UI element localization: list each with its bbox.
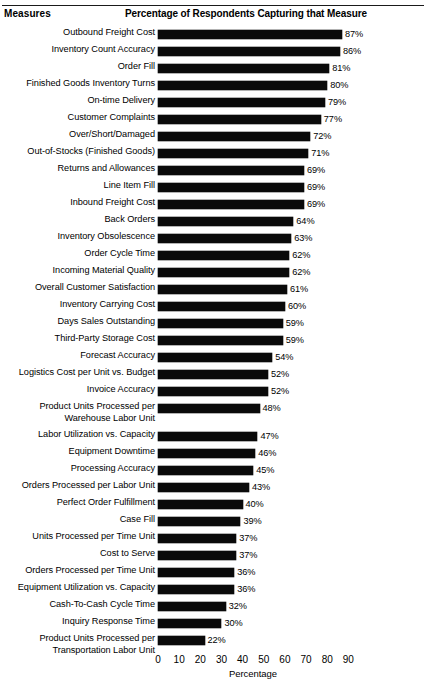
bar-track: 61%	[158, 285, 358, 294]
x-tick-label: 10	[174, 654, 185, 666]
bar	[158, 30, 342, 39]
chart-row: Labor Utilization vs. Capacity47%	[0, 429, 427, 446]
bar	[158, 466, 253, 475]
plot-area: Outbound Freight Cost87%Inventory Count …	[0, 27, 427, 661]
category-label: Inventory Count Accuracy	[3, 44, 155, 55]
chart-row: Case Fill39%	[0, 514, 427, 531]
bar	[158, 268, 289, 277]
category-label: Outbound Freight Cost	[3, 27, 155, 38]
category-label: Inquiry Response Time	[3, 616, 155, 627]
category-label: Returns and Allowances	[3, 163, 155, 174]
bar-track: 59%	[158, 336, 358, 345]
category-label: Invoice Accuracy	[3, 384, 155, 395]
header-divider-rule	[2, 5, 424, 6]
bar-track: 30%	[158, 619, 358, 628]
category-label: Customer Complaints	[3, 112, 155, 123]
bar-track: 77%	[158, 115, 358, 124]
bar-value-label: 43%	[252, 482, 270, 493]
bar	[158, 619, 221, 628]
bar-track: 37%	[158, 534, 358, 543]
bar-track: 71%	[158, 149, 358, 158]
bar-value-label: 71%	[311, 148, 329, 159]
bar-value-label: 69%	[307, 165, 325, 176]
chart-row: Inbound Freight Cost69%	[0, 197, 427, 214]
bar	[158, 602, 226, 611]
bar-value-label: 47%	[260, 431, 278, 442]
bar-value-label: 59%	[286, 335, 304, 346]
bar	[158, 483, 249, 492]
bar-value-label: 46%	[258, 448, 276, 459]
chart-row: Out-of-Stocks (Finished Goods)71%	[0, 146, 427, 163]
bar-value-label: 48%	[263, 403, 281, 414]
bar-track: 36%	[158, 568, 358, 577]
bar	[158, 336, 283, 345]
chart-row: Cost to Serve37%	[0, 548, 427, 565]
bar-value-label: 64%	[296, 216, 314, 227]
chart-row: Customer Complaints77%	[0, 112, 427, 129]
chart-row: Back Orders64%	[0, 214, 427, 231]
bar	[158, 302, 285, 311]
bar	[158, 251, 289, 260]
bar-track: 69%	[158, 200, 358, 209]
chart-row: Third-Party Storage Cost59%	[0, 333, 427, 350]
bar-track: 54%	[158, 353, 358, 362]
bar-value-label: 61%	[290, 284, 308, 295]
bar	[158, 551, 236, 560]
chart-row: Processing Accuracy45%	[0, 463, 427, 480]
chart-row: On-time Delivery79%	[0, 95, 427, 112]
bar-value-label: 80%	[330, 80, 348, 91]
bar	[158, 534, 236, 543]
bar	[158, 353, 272, 362]
bar-track: 48%	[158, 404, 358, 413]
bar-track: 59%	[158, 319, 358, 328]
bar	[158, 183, 304, 192]
x-tick-label: 30	[216, 654, 227, 666]
chart-row: Inquiry Response Time30%	[0, 616, 427, 633]
chart-row: Units Processed per Time Unit37%	[0, 531, 427, 548]
chart-row: Forecast Accuracy54%	[0, 350, 427, 367]
x-tick-label: 70	[300, 654, 311, 666]
bar-value-label: 63%	[294, 233, 312, 244]
category-label: Case Fill	[3, 514, 155, 525]
bar-track: 64%	[158, 217, 358, 226]
category-label: Logistics Cost per Unit vs. Budget	[3, 367, 155, 378]
bar-value-label: 87%	[345, 29, 363, 40]
chart-row: Returns and Allowances69%	[0, 163, 427, 180]
bar-value-label: 32%	[229, 601, 247, 612]
chart-row: Perfect Order Fulfillment40%	[0, 497, 427, 514]
cut-off-title-ghost	[0, 0, 427, 2]
category-label: Back Orders	[3, 214, 155, 225]
category-label: Orders Processed per Labor Unit	[3, 480, 155, 491]
bar-track: 37%	[158, 551, 358, 560]
bar-value-label: 72%	[313, 131, 331, 142]
chart-row: Over/Short/Damaged72%	[0, 129, 427, 146]
category-label: Order Cycle Time	[3, 248, 155, 259]
bar-value-label: 45%	[256, 465, 274, 476]
bar-track: 52%	[158, 387, 358, 396]
bar-value-label: 69%	[307, 199, 325, 210]
bar	[158, 47, 340, 56]
x-tick-label: 0	[155, 654, 161, 666]
chart-row: Invoice Accuracy52%	[0, 384, 427, 401]
bar-value-label: 60%	[288, 301, 306, 312]
bar-track: 36%	[158, 585, 358, 594]
bar-value-label: 86%	[343, 46, 361, 57]
x-axis-title: Percentage	[158, 668, 348, 679]
bar-value-label: 81%	[332, 63, 350, 74]
bar	[158, 387, 268, 396]
chart-row: Orders Processed per Labor Unit43%	[0, 480, 427, 497]
x-tick-label: 20	[195, 654, 206, 666]
x-tick-label: 90	[343, 654, 354, 666]
category-label: Inventory Carrying Cost	[3, 299, 155, 310]
bar-value-label: 37%	[239, 550, 257, 561]
chart-row: Inventory Obsolescence63%	[0, 231, 427, 248]
category-label: Finished Goods Inventory Turns	[3, 78, 155, 89]
bar	[158, 404, 260, 413]
chart-row: Overall Customer Satisfaction61%	[0, 282, 427, 299]
bar-value-label: 62%	[292, 267, 310, 278]
bar-track: 69%	[158, 166, 358, 175]
bar-value-label: 77%	[324, 114, 342, 125]
bar-value-label: 37%	[239, 533, 257, 544]
category-label: Inbound Freight Cost	[3, 197, 155, 208]
category-label: Labor Utilization vs. Capacity	[3, 429, 155, 440]
